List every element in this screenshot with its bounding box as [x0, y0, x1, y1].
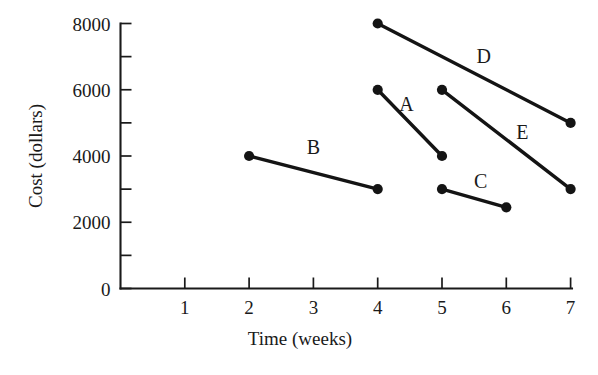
data-point-a: [373, 85, 383, 95]
y-tick-label: 0: [101, 279, 111, 300]
y-axis-ticks: [121, 24, 132, 289]
x-tick-label: 5: [437, 297, 447, 318]
series-label-group: ABCDE: [307, 45, 529, 191]
cost-vs-time-chart: 02000400060008000 1234567 ABCDE Time (we…: [0, 0, 598, 375]
data-point-b: [373, 184, 383, 194]
series-label-c: C: [474, 170, 487, 192]
series-label-d: D: [477, 45, 491, 67]
x-tick-label: 7: [566, 297, 576, 318]
y-axis-title: Cost (dollars): [25, 104, 47, 208]
y-tick-label: 4000: [73, 146, 111, 167]
x-tick-label: 6: [502, 297, 512, 318]
x-tick-label: 2: [244, 297, 254, 318]
y-tick-label: 2000: [73, 212, 111, 233]
series-segment-c: [442, 189, 506, 207]
series-segment-b: [249, 156, 378, 189]
x-tick-label: 4: [373, 297, 383, 318]
data-series-group: [244, 18, 576, 212]
x-axis-ticks: [185, 278, 571, 289]
series-segment-e: [442, 90, 571, 189]
series-label-a: A: [399, 93, 414, 115]
data-point-e: [437, 85, 447, 95]
y-tick-label: 6000: [73, 80, 111, 101]
data-point-b: [244, 151, 254, 161]
y-tick-label: 8000: [73, 14, 111, 35]
x-tick-label: 3: [309, 297, 319, 318]
data-point-d: [373, 18, 383, 28]
y-axis-tick-labels: 02000400060008000: [73, 14, 111, 300]
data-point-e: [566, 184, 576, 194]
x-axis-title: Time (weeks): [248, 328, 352, 350]
x-axis-tick-labels: 1234567: [180, 297, 575, 318]
x-tick-label: 1: [180, 297, 190, 318]
chart-figure: 02000400060008000 1234567 ABCDE Time (we…: [0, 0, 598, 375]
data-point-a: [437, 151, 447, 161]
series-label-b: B: [307, 136, 320, 158]
data-point-c: [501, 202, 511, 212]
data-point-d: [566, 118, 576, 128]
series-label-e: E: [516, 121, 528, 143]
data-point-c: [437, 184, 447, 194]
